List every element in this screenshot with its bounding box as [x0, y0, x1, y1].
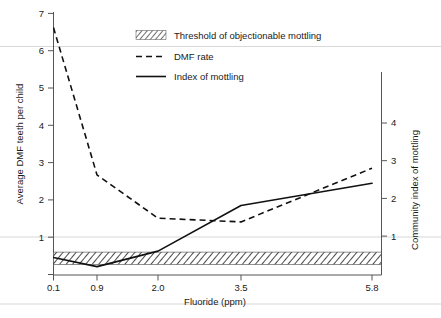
- legend-label-index-of-mottling: Index of mottling: [174, 71, 244, 82]
- right-tick-label-2: 2: [391, 193, 396, 204]
- threshold-band: [54, 252, 382, 264]
- legend-swatch-threshold: [136, 31, 166, 40]
- legend-label-threshold: Threshold of objectionable mottling: [174, 30, 321, 41]
- chart-background: [0, 0, 441, 318]
- fluoride-dmf-mottling-chart: 1 2 3 4 5 6 7 Average DMF teeth per chil…: [0, 0, 441, 318]
- left-tick-label-3: 3: [39, 157, 44, 168]
- x-tick-label-3: 3.5: [234, 282, 247, 293]
- right-axis-title: Community index of mottling: [409, 130, 420, 250]
- left-tick-label-2: 2: [39, 194, 44, 205]
- x-tick-label-0: 0.1: [47, 282, 60, 293]
- right-tick-label-3: 3: [391, 155, 396, 166]
- x-axis-title: Fluoride (ppm): [184, 296, 246, 307]
- legend-label-dmf-rate: DMF rate: [174, 51, 214, 62]
- x-tick-label-4: 5.8: [365, 282, 378, 293]
- chart-figure: 1 2 3 4 5 6 7 Average DMF teeth per chil…: [0, 0, 441, 318]
- x-tick-label-1: 0.9: [90, 282, 103, 293]
- right-tick-label-1: 1: [391, 231, 396, 242]
- left-tick-label-1: 1: [39, 232, 44, 243]
- left-axis-title: Average DMF teeth per child: [14, 84, 25, 205]
- left-tick-label-4: 4: [39, 120, 44, 131]
- left-tick-label-7: 7: [39, 8, 44, 19]
- left-tick-label-6: 6: [39, 45, 44, 56]
- left-tick-label-5: 5: [39, 82, 44, 93]
- x-tick-label-2: 2.0: [151, 282, 164, 293]
- right-tick-label-4: 4: [391, 117, 396, 128]
